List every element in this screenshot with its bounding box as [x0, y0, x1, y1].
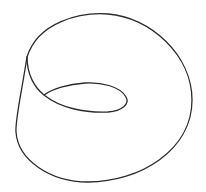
outer-edge-curve: [16, 14, 192, 182]
inner-fold-curve: [27, 57, 127, 112]
mobius-strip-figure: Möbius strip line drawing: [0, 0, 206, 192]
mobius-strip-drawing: [0, 0, 206, 192]
